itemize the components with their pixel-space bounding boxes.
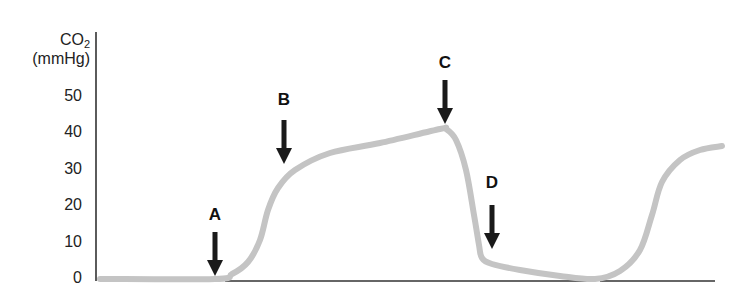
y-tick-30: 30 xyxy=(42,160,82,178)
phase-arrows xyxy=(207,80,500,276)
y-tick-0: 0 xyxy=(42,269,82,287)
capnogram-chart xyxy=(0,0,732,294)
co2-waveform xyxy=(100,127,722,279)
co2-curve xyxy=(100,127,722,279)
y-tick-50: 50 xyxy=(42,87,82,105)
phase-label-b: B xyxy=(272,91,296,109)
phase-label-d: D xyxy=(480,174,504,192)
phase-label-c: C xyxy=(433,54,457,72)
axes xyxy=(96,32,715,281)
arrow-d-icon xyxy=(484,205,500,249)
arrow-c-icon xyxy=(437,80,453,124)
arrow-a-icon xyxy=(207,232,223,276)
y-tick-40: 40 xyxy=(42,123,82,141)
y-axis-label-co: CO xyxy=(60,31,84,48)
y-axis-label-unit: (mmHg) xyxy=(10,49,90,68)
y-axis-label: CO2 (mmHg) xyxy=(10,30,90,68)
arrow-b-icon xyxy=(276,120,292,164)
phase-label-a: A xyxy=(203,206,227,224)
y-tick-10: 10 xyxy=(42,233,82,251)
y-tick-20: 20 xyxy=(42,196,82,214)
